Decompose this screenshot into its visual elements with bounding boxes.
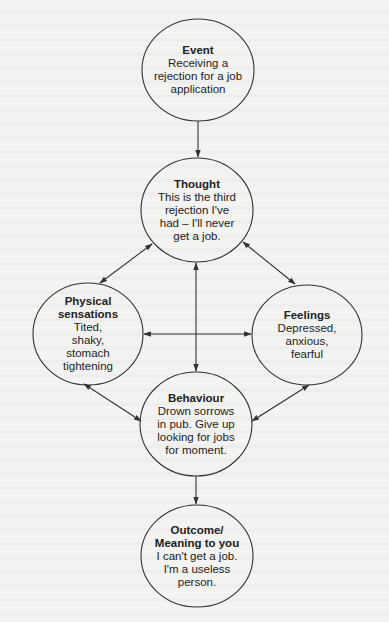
node-thought-line: This is the third bbox=[158, 191, 236, 204]
node-physical-line: shaky, bbox=[72, 334, 104, 347]
node-behaviour-line: Drown sorrows bbox=[158, 405, 235, 418]
node-outcome-title: Meaning to you bbox=[155, 537, 239, 550]
node-outcome-title: Outcome/ bbox=[170, 524, 223, 537]
node-behaviour-line: in pub. Give up bbox=[157, 418, 234, 431]
node-behaviour: Behaviour Drown sorrows in pub. Give up … bbox=[140, 372, 252, 476]
node-physical-line: tightening bbox=[63, 360, 113, 373]
node-feelings: Feelings Depressed, anxious, fearful bbox=[252, 285, 362, 385]
node-physical-line: stomach bbox=[66, 347, 109, 360]
node-thought-line: rejection I've bbox=[165, 204, 229, 217]
node-event-line: Receiving a bbox=[168, 57, 228, 70]
node-behaviour-line: looking for jobs bbox=[157, 431, 234, 444]
node-event-line: rejection for a job bbox=[154, 70, 242, 83]
node-feelings-title: Feelings bbox=[284, 309, 331, 322]
arrow-physical-behaviour bbox=[84, 384, 141, 421]
node-behaviour-line: for moment. bbox=[165, 444, 226, 457]
node-physical-sensations: Physical sensations Tited, shaky, stomac… bbox=[33, 283, 143, 385]
node-thought: Thought This is the third rejection I've… bbox=[141, 158, 253, 262]
node-outcome-line: I'm a useless bbox=[164, 563, 231, 576]
node-outcome: Outcome/ Meaning to you I can't get a jo… bbox=[141, 505, 253, 607]
node-physical-title: sensations bbox=[58, 308, 118, 321]
node-physical-title: Physical bbox=[65, 295, 112, 308]
node-feelings-line: Depressed, bbox=[278, 322, 337, 335]
node-feelings-line: fearful bbox=[291, 348, 323, 361]
arrow-feelings-behaviour bbox=[252, 385, 309, 421]
node-feelings-line: anxious, bbox=[286, 335, 329, 348]
node-physical-line: Tited, bbox=[74, 321, 102, 334]
node-outcome-line: person. bbox=[178, 576, 216, 589]
node-thought-line: get a job. bbox=[173, 230, 220, 243]
node-thought-title: Thought bbox=[174, 178, 220, 191]
node-event-line: application bbox=[171, 83, 226, 96]
node-behaviour-title: Behaviour bbox=[168, 392, 224, 405]
node-event: Event Receiving a rejection for a job ap… bbox=[142, 19, 254, 121]
node-outcome-line: I can't get a job. bbox=[157, 550, 238, 563]
node-event-title: Event bbox=[182, 44, 213, 57]
node-thought-line: had – I'll never bbox=[160, 217, 234, 230]
